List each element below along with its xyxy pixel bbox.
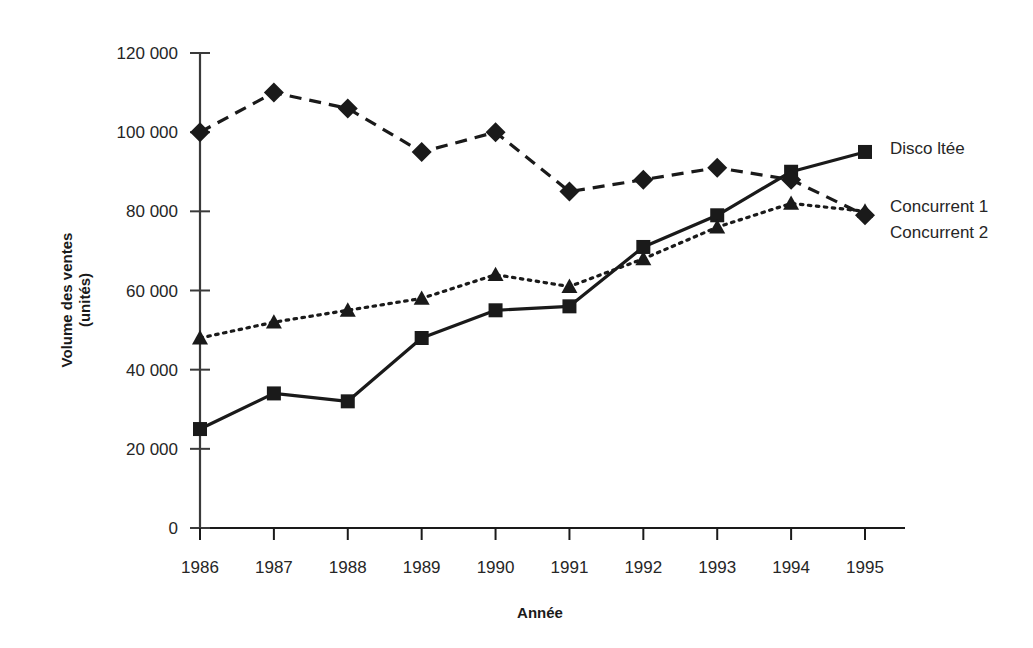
x-axis-tick-label: 1989 (403, 558, 441, 577)
x-axis-tick-label: 1987 (255, 558, 293, 577)
data-point-square (489, 303, 503, 317)
x-axis-tick-label: 1992 (624, 558, 662, 577)
y-axis-tick-label: 120 000 (117, 44, 178, 63)
y-axis-tick-label: 100 000 (117, 123, 178, 142)
data-point-square (341, 394, 355, 408)
x-axis-tick-label: 1988 (329, 558, 367, 577)
x-axis-tick-label: 1991 (551, 558, 589, 577)
data-point-square (858, 145, 872, 159)
legend-entry-3: Concurrent 2 (890, 223, 988, 242)
y-axis-tick-label: 0 (169, 519, 178, 538)
chart-background (0, 0, 1033, 648)
legend-label: Concurrent 1 (890, 197, 988, 216)
data-point-square (267, 386, 281, 400)
y-axis-title-line1: Volume des ventes (58, 233, 75, 368)
x-axis-tick-label: 1986 (181, 558, 219, 577)
data-point-square (415, 331, 429, 345)
legend-entry-2: Concurrent 1 (890, 197, 988, 216)
data-point-square (562, 299, 576, 313)
x-axis-tick-label: 1990 (477, 558, 515, 577)
chart-container: 020 00040 00060 00080 000100 000120 000 … (0, 0, 1033, 648)
x-axis-tick-label: 1993 (698, 558, 736, 577)
sales-volume-line-chart: 020 00040 00060 00080 000100 000120 000 … (0, 0, 1033, 648)
legend-label: Concurrent 2 (890, 223, 988, 242)
y-axis-tick-label: 40 000 (126, 361, 178, 380)
x-axis-tick-label: 1994 (772, 558, 810, 577)
y-axis-tick-label: 60 000 (126, 282, 178, 301)
y-axis-tick-label: 80 000 (126, 202, 178, 221)
data-point-square (193, 422, 207, 436)
y-axis-tick-label: 20 000 (126, 440, 178, 459)
x-axis-tick-label: 1995 (846, 558, 884, 577)
x-axis-title: Année (517, 604, 563, 621)
y-axis-title-line2: (unités) (76, 273, 93, 327)
legend-entry-1: Disco ltée (890, 139, 965, 158)
legend-label: Disco ltée (890, 139, 965, 158)
